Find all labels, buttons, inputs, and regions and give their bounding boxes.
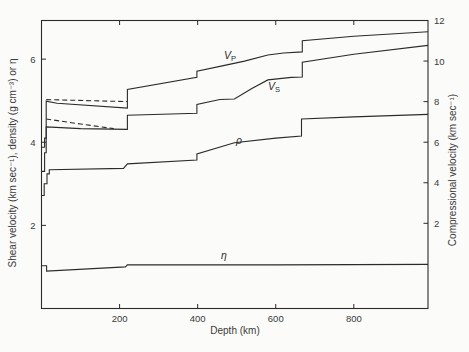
left-tick-label: 4: [30, 137, 35, 148]
left-tick-label: 2: [30, 220, 35, 231]
seismic-velocity-depth-figure: 20040060080024624681012 Shear velocity (…: [0, 0, 469, 352]
right-tick-label: 6: [434, 137, 439, 148]
vp-curve-label: VP: [224, 49, 236, 63]
compressional-velocity-Vp-alternate-curve: [46, 100, 127, 102]
density-rho-curve: [42, 114, 429, 195]
right-tick-label: 12: [434, 15, 445, 26]
eta-curve-label: η: [221, 249, 227, 261]
vs-curve-label: VS: [268, 80, 280, 94]
eta-curve: [42, 264, 429, 271]
right-tick-label: 10: [434, 56, 445, 67]
x-tick-label: 400: [190, 313, 206, 324]
right-axis-title: Compressional velocity (km sec⁻¹): [447, 94, 458, 246]
rho-curve-label: ρ: [236, 134, 242, 146]
x-axis-title: Depth (km): [210, 325, 259, 336]
left-axis-title: Shear velocity (km sec⁻¹), density (g cm…: [7, 59, 18, 268]
x-tick-label: 800: [346, 313, 362, 324]
left-tick-label: 6: [30, 54, 35, 65]
shear-velocity-Vs-curve: [42, 45, 429, 171]
x-tick-label: 600: [268, 313, 284, 324]
right-tick-label: 4: [434, 177, 439, 188]
x-tick-label: 200: [112, 313, 128, 324]
right-tick-label: 2: [434, 218, 439, 229]
right-tick-label: 8: [434, 96, 439, 107]
